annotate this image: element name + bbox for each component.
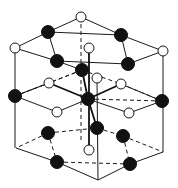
white-atom: [44, 78, 54, 88]
black-atom: [42, 26, 55, 39]
white-atom: [76, 12, 86, 22]
black-atom: [76, 64, 89, 77]
black-atom: [42, 127, 55, 140]
black-atom: [51, 55, 64, 68]
dashed-bond: [57, 162, 130, 164]
black-atom: [117, 130, 130, 143]
black-atom: [51, 156, 64, 169]
white-atom: [52, 107, 62, 117]
black-atom: [9, 90, 22, 103]
white-atom: [116, 79, 126, 89]
black-atom: [115, 29, 128, 42]
white-atom: [84, 145, 94, 155]
solid-bond: [48, 32, 121, 35]
black-atom: [156, 95, 169, 108]
white-atom: [92, 73, 102, 83]
solid-bond: [57, 61, 128, 64]
dashed-bond: [88, 99, 162, 101]
white-atom: [158, 46, 168, 56]
black-atom: [82, 93, 95, 106]
black-atom: [122, 58, 135, 71]
black-atom: [124, 158, 137, 171]
crystal-lattice-diagram: [0, 0, 178, 188]
white-atom: [10, 43, 20, 53]
black-atom: [91, 122, 104, 135]
white-atom: [84, 43, 94, 53]
white-atom: [124, 108, 134, 118]
